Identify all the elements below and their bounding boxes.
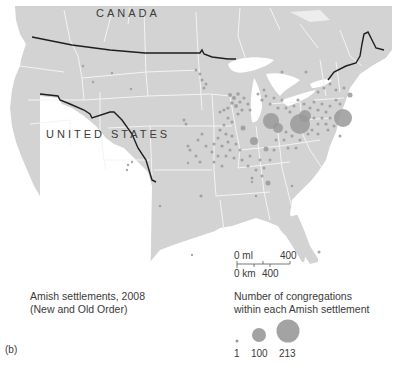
legend-title-line-1: Number of congregations [234,290,369,303]
legend-value-100: 100 [251,348,268,359]
legend-circle-1 [236,340,239,343]
caption-line-1: Amish settlements, 2008 [30,290,145,303]
legend-circle-213 [277,320,300,343]
legend-symbols: 1 100 213 [234,320,300,360]
legend-circle-100 [252,328,266,342]
legend-value-213: 213 [279,348,296,359]
label-canada: CANADA [96,7,160,19]
map-caption: Amish settlements, 2008 (New and Old Ord… [30,290,145,316]
label-united-states: UNITED STATES [46,128,170,140]
scale-km-start: 0 km [234,268,256,279]
scale-km-end: 400 [262,268,279,279]
legend-title-line-2: within each Amish settlement [234,303,369,316]
panel-label: (b) [5,344,17,355]
legend-value-1: 1 [234,348,240,359]
caption-line-2: (New and Old Order) [30,303,145,316]
scale-miles-end: 400 [280,250,297,261]
amish-settlement-map: CANADA UNITED STATES [0,0,399,378]
legend-title: Number of congregations within each Amis… [234,290,369,316]
scale-miles-start: 0 ml [234,250,253,261]
